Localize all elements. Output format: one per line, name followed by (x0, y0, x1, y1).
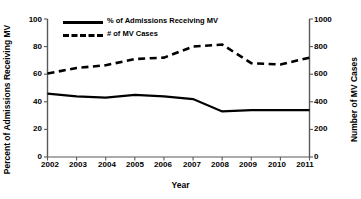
plot-area (0, 0, 361, 199)
chart-figure: Percent of Admissions Receiving MV Numbe… (0, 0, 361, 199)
series-line-mv-cases (48, 45, 310, 74)
series-line-admissions (48, 94, 310, 112)
